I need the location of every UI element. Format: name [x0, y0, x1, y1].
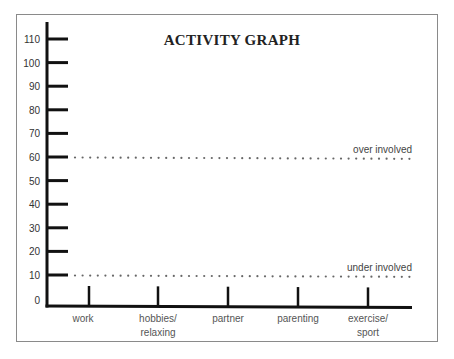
y-tick-label: 20: [29, 246, 41, 257]
y-tick-label: 100: [23, 58, 40, 69]
y-tick-label: 60: [29, 152, 41, 163]
category-label: work: [71, 313, 94, 324]
y-tick-label: 70: [29, 128, 41, 139]
x-axis: workhobbies/relaxingpartnerparentingexer…: [46, 286, 413, 338]
y-tick-label: 110: [24, 34, 40, 45]
category-label: parenting: [277, 313, 319, 324]
y-tick-label: 80: [29, 105, 41, 116]
reference-line-under-involved: under involved: [74, 262, 412, 278]
reference-line-label: over involved: [353, 144, 412, 155]
category-label: sport: [357, 327, 379, 338]
y-axis: 0102030405060708090100110: [23, 22, 68, 308]
category-label: partner: [212, 313, 244, 324]
chart-title: ACTIVITY GRAPH: [164, 32, 301, 48]
y-tick-label: 10: [29, 270, 41, 281]
category-label: exercise/: [348, 313, 388, 324]
reference-line-label: under involved: [347, 262, 412, 273]
y-tick-label: 50: [29, 176, 41, 187]
y-tick-label: 0: [34, 295, 40, 306]
y-tick-label: 30: [29, 223, 41, 234]
y-tick-label: 90: [29, 81, 41, 92]
category-label: hobbies/: [139, 313, 177, 324]
activity-graph: ACTIVITY GRAPH 0102030405060708090100110…: [0, 0, 454, 359]
reference-line-over-involved: over involved: [74, 144, 412, 160]
y-tick-label: 40: [29, 199, 41, 210]
category-label: relaxing: [140, 327, 175, 338]
reference-lines: over involvedunder involved: [74, 144, 412, 278]
